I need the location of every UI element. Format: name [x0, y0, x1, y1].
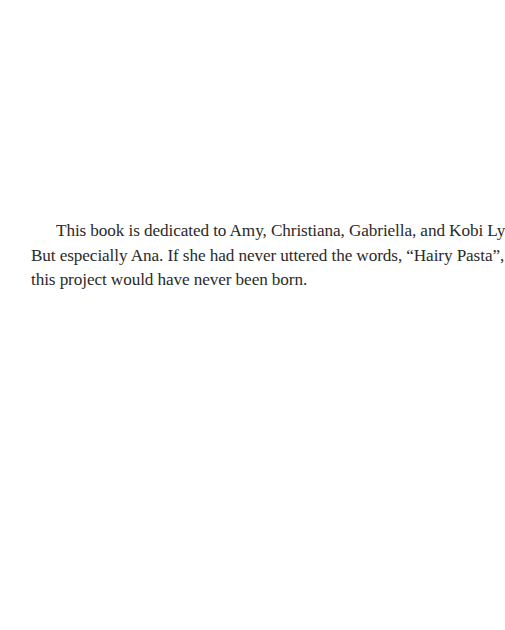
dedication-line-2: But especially Ana. If she had never utt…	[31, 244, 481, 269]
book-page: This book is dedicated to Amy, Christian…	[0, 0, 505, 630]
dedication-line-3: this project would have never been born.	[31, 268, 481, 293]
dedication-paragraph: This book is dedicated to Amy, Christian…	[31, 219, 481, 293]
dedication-line-1: This book is dedicated to Amy, Christian…	[31, 219, 481, 244]
